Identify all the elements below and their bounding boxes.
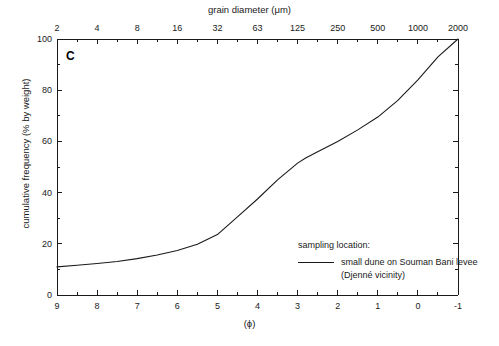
y-tick-label: 40 bbox=[28, 188, 52, 198]
top-tick-label: 1000 bbox=[408, 23, 428, 33]
legend-series-label: small dune on Souman Bani levee bbox=[341, 257, 478, 267]
x-tick-label: 0 bbox=[415, 301, 420, 311]
y-tick-label: 60 bbox=[28, 136, 52, 146]
top-tick-label: 125 bbox=[290, 23, 305, 33]
data-series-line bbox=[57, 39, 458, 267]
legend-item: small dune on Souman Bani levee bbox=[298, 257, 478, 267]
chart-figure: grain diameter (μm) (ϕ) cumulative frequ… bbox=[0, 0, 499, 346]
y-tick-label: 80 bbox=[28, 85, 52, 95]
y-tick-label: 20 bbox=[28, 239, 52, 249]
top-tick-label: 4 bbox=[95, 23, 100, 33]
top-tick-label: 2000 bbox=[448, 23, 468, 33]
x-tick-label: -1 bbox=[454, 301, 462, 311]
top-tick-label: 8 bbox=[135, 23, 140, 33]
x-tick-label: 6 bbox=[175, 301, 180, 311]
x-tick-label: 2 bbox=[335, 301, 340, 311]
x-tick-label: 9 bbox=[54, 301, 59, 311]
top-tick-label: 16 bbox=[172, 23, 182, 33]
top-tick-label: 32 bbox=[212, 23, 222, 33]
top-tick-label: 63 bbox=[252, 23, 262, 33]
legend-line-swatch bbox=[298, 262, 334, 263]
top-tick-label: 250 bbox=[330, 23, 345, 33]
x-tick-label: 8 bbox=[95, 301, 100, 311]
legend-sub-label: (Djenné vicinity) bbox=[341, 270, 478, 280]
x-tick-label: 7 bbox=[135, 301, 140, 311]
x-tick-label: 4 bbox=[255, 301, 260, 311]
legend-heading: sampling location: bbox=[298, 240, 478, 250]
chart-legend: sampling location: small dune on Souman … bbox=[298, 240, 478, 280]
y-tick-label: 100 bbox=[28, 34, 52, 44]
x-tick-label: 1 bbox=[375, 301, 380, 311]
x-tick-label: 5 bbox=[215, 301, 220, 311]
x-tick-label: 3 bbox=[295, 301, 300, 311]
top-tick-label: 500 bbox=[370, 23, 385, 33]
y-tick-label: 0 bbox=[28, 290, 52, 300]
plot-area bbox=[0, 0, 499, 346]
top-tick-label: 2 bbox=[54, 23, 59, 33]
